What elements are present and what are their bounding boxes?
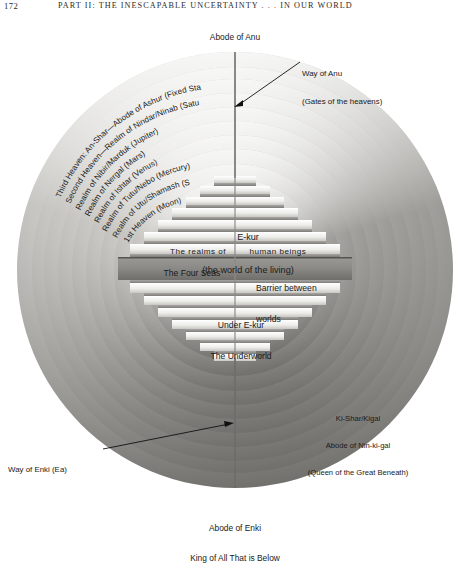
label-underworld: Under E-kur The Underworld bbox=[210, 300, 271, 381]
label-abode-of-enki: Abode of Enki King of All That is Below bbox=[190, 504, 280, 567]
label-four-seas: The Four Seas bbox=[164, 268, 221, 278]
kigal-line2: Abode of Nin-ki-gal bbox=[308, 442, 408, 451]
abode-of-enki-line1: Abode of Enki bbox=[190, 524, 280, 534]
label-abode-of-anu: Abode of Anu bbox=[210, 33, 260, 43]
callout-way-of-anu: Way of Anu (Gates of the heavens) bbox=[302, 50, 382, 125]
kigal-line1: Ki-Shar/Kigal bbox=[308, 415, 408, 424]
label-kishar-kigal: Ki-Shar/Kigal Abode of Nin-ki-gal (Queen… bbox=[308, 397, 408, 495]
under-line1: Under E-kur bbox=[210, 320, 271, 330]
way-of-enki-line1: Way of Enki (Ea) bbox=[8, 465, 67, 474]
barrier-line1: Barrier between bbox=[256, 283, 317, 293]
under-line2: The Underworld bbox=[210, 351, 271, 361]
label-human-beings: human beings bbox=[250, 247, 307, 257]
ekur-line1: E-kur bbox=[202, 232, 293, 243]
label-realms-of: The realms of bbox=[170, 247, 226, 257]
kigal-line3: (Queen of the Great Beneath) bbox=[308, 469, 408, 478]
way-of-anu-line1: Way of Anu bbox=[302, 69, 382, 78]
abode-of-enki-line2: King of All That is Below bbox=[190, 554, 280, 564]
callout-way-of-enki: Way of Enki (Ea) bbox=[8, 446, 67, 493]
way-of-anu-line2: (Gates of the heavens) bbox=[302, 97, 382, 106]
